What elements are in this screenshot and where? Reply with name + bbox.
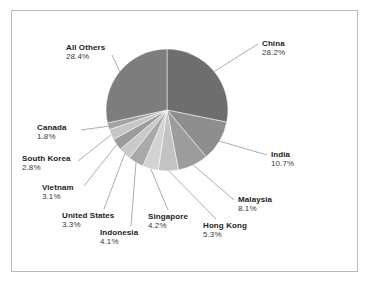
- pie-label-united-states: United States 3.3%: [62, 212, 114, 230]
- pie-label-value: 28.2%: [262, 49, 285, 58]
- leader-line: [112, 55, 120, 72]
- leader-line: [81, 126, 109, 130]
- pie-chart: [0, 0, 373, 285]
- pie-label-value: 4.2%: [148, 222, 188, 231]
- leader-line: [84, 144, 117, 186]
- pie-label-all-others: All Others 28.4%: [66, 44, 105, 62]
- pie-slices: [106, 49, 228, 171]
- pie-label-indonesia: Indonesia 4.1%: [100, 229, 138, 247]
- pie-slice: [106, 49, 167, 123]
- pie-label-value: 1.8%: [37, 133, 67, 142]
- pie-label-value: 3.3%: [62, 221, 114, 230]
- pie-label-india: India 10.7%: [271, 151, 294, 169]
- pie-label-hong-kong: Hong Kong 5.3%: [203, 222, 247, 240]
- pie-label-china: China 28.2%: [262, 40, 285, 58]
- leader-line: [131, 162, 136, 226]
- pie-label-value: 8.1%: [238, 205, 272, 214]
- leader-line: [150, 168, 168, 210]
- pie-label-south-korea: South Korea 2.8%: [22, 155, 71, 173]
- pie-label-value: 4.1%: [100, 238, 138, 247]
- pie-label-vietnam: Vietnam 3.1%: [42, 184, 74, 202]
- leader-line: [104, 153, 125, 209]
- pie-label-value: 28.4%: [66, 53, 105, 62]
- pie-label-value: 10.7%: [271, 160, 294, 169]
- leader-line: [214, 44, 258, 72]
- pie-slice: [167, 49, 228, 122]
- leader-line: [219, 141, 267, 155]
- pie-label-value: 2.8%: [22, 164, 71, 173]
- pie-label-value: 5.3%: [203, 231, 247, 240]
- pie-label-value: 3.1%: [42, 193, 74, 202]
- pie-label-singapore: Singapore 4.2%: [148, 213, 188, 231]
- pie-label-canada: Canada 1.8%: [37, 124, 67, 142]
- leader-line: [193, 165, 234, 200]
- pie-label-malaysia: Malaysia 8.1%: [238, 196, 272, 214]
